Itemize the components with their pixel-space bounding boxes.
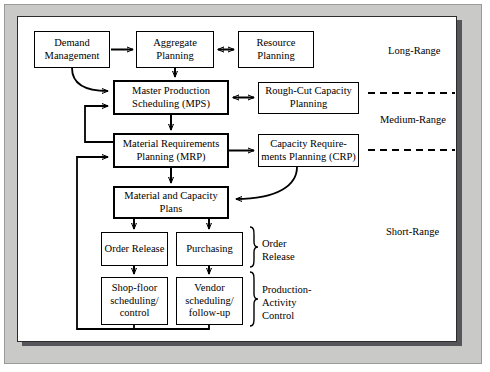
box-material-and-capacity-plans[interactable]: Material and Capacity Plans <box>113 186 229 219</box>
label-short-range: Short-Range <box>386 225 439 238</box>
box-aggregate-planning[interactable]: Aggregate Planning <box>136 31 214 68</box>
box-vendor-scheduling[interactable]: Vendor scheduling/ follow-up <box>176 277 243 325</box>
box-order-release[interactable]: Order Release <box>101 232 168 266</box>
box-purchasing[interactable]: Purchasing <box>176 232 243 266</box>
box-resource-planning[interactable]: Resource Planning <box>238 31 314 68</box>
label-order-release-group: Order Release <box>262 237 295 263</box>
label-production-activity-control: Production- Activity Control <box>262 283 312 322</box>
box-master-production-scheduling[interactable]: Master Production Scheduling (MPS) <box>113 80 229 115</box>
box-demand-management[interactable]: Demand Management <box>34 31 110 68</box>
box-capacity-requirements-planning[interactable]: Capacity Require- ments Planning (CRP) <box>258 134 359 167</box>
label-long-range: Long-Range <box>388 44 441 57</box>
box-material-requirements-planning[interactable]: Material Requirements Planning (MRP) <box>113 133 229 168</box>
box-rough-cut-capacity-planning[interactable]: Rough-Cut Capacity Planning <box>258 82 359 114</box>
box-shop-floor-scheduling[interactable]: Shop-floor scheduling/ control <box>101 277 168 325</box>
diagram-canvas: Demand Management Aggregate Planning Res… <box>0 0 490 372</box>
label-medium-range: Medium-Range <box>380 113 446 126</box>
